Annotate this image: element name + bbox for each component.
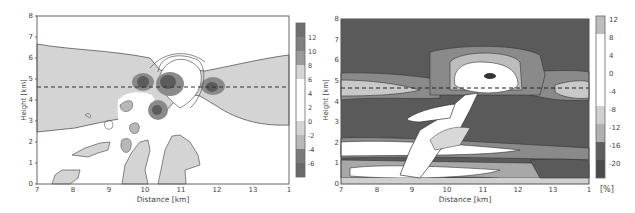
svg-text:5: 5 [335,77,339,85]
right-chart: 0 1 2 3 4 5 6 7 8 Height [km] 7 8 9 10 1… [322,15,621,204]
right-x-label: Distance [km] [439,195,492,204]
svg-text:6: 6 [308,76,312,84]
svg-text:7: 7 [339,186,343,194]
svg-text:0: 0 [609,70,613,78]
svg-text:1: 1 [335,159,339,167]
svg-text:1: 1 [587,186,591,194]
svg-text:2: 2 [335,139,339,147]
svg-text:7: 7 [335,36,339,44]
svg-text:4: 4 [308,90,312,98]
right-colorbar: 12 8 4 0 -4 -8 -12 -16 -20 [%] [596,16,621,194]
svg-text:12: 12 [514,186,523,194]
svg-text:-2: -2 [308,132,314,140]
svg-text:-20: -20 [609,160,620,168]
svg-text:10: 10 [308,48,316,56]
svg-text:2: 2 [308,104,312,112]
svg-text:6: 6 [335,56,340,64]
right-y-label: Height [km] [322,79,330,121]
svg-text:13: 13 [549,186,558,194]
svg-text:8: 8 [29,12,33,20]
svg-text:1: 1 [29,159,33,167]
svg-text:10: 10 [141,186,150,194]
right-y-axis: 0 1 2 3 4 5 6 7 8 [335,15,340,188]
svg-text:9: 9 [107,186,111,194]
svg-text:8: 8 [609,34,613,42]
svg-text:11: 11 [479,186,488,194]
svg-text:-8: -8 [609,106,616,114]
svg-text:10: 10 [443,186,452,194]
svg-text:6: 6 [29,54,34,62]
svg-text:3: 3 [335,118,339,126]
svg-text:8: 8 [308,62,312,70]
right-colorbar-unit: [%] [600,185,614,194]
figure: 0 1 2 3 4 5 6 7 8 Height [km] 7 8 9 10 1… [0,0,635,213]
svg-text:8: 8 [71,186,75,194]
svg-text:13: 13 [249,186,258,194]
svg-text:0: 0 [29,180,33,188]
svg-text:-6: -6 [308,160,314,168]
svg-text:12: 12 [213,186,222,194]
svg-text:2: 2 [29,138,33,146]
svg-text:11: 11 [177,186,186,194]
left-chart: 0 1 2 3 4 5 6 7 8 Height [km] 7 8 9 10 1… [20,12,316,204]
svg-text:12: 12 [308,34,316,42]
svg-text:-4: -4 [308,146,314,154]
left-colorbar: 12 10 8 6 4 2 0 -2 -4 -6 [296,23,316,177]
svg-text:-12: -12 [609,124,620,132]
svg-text:5: 5 [29,75,33,83]
svg-text:9: 9 [410,186,414,194]
svg-text:0: 0 [308,118,312,126]
svg-text:8: 8 [375,186,379,194]
svg-text:12: 12 [609,16,618,24]
svg-text:-4: -4 [609,88,617,96]
left-x-label: Distance [km] [137,195,190,204]
svg-text:4: 4 [29,96,34,104]
svg-text:-16: -16 [609,142,621,150]
left-y-label: Height [km] [20,79,28,121]
right-x-axis: 7 8 9 10 11 12 13 1 [339,186,591,194]
left-y-axis: 0 1 2 3 4 5 6 7 8 [29,12,37,188]
svg-text:3: 3 [29,117,33,125]
left-x-axis: 7 8 9 10 11 12 13 1 [35,186,291,194]
svg-text:8: 8 [335,15,339,23]
svg-text:1: 1 [287,186,291,194]
svg-text:7: 7 [29,33,33,41]
svg-text:4: 4 [335,98,340,106]
svg-text:7: 7 [35,186,39,194]
svg-text:4: 4 [609,52,614,60]
